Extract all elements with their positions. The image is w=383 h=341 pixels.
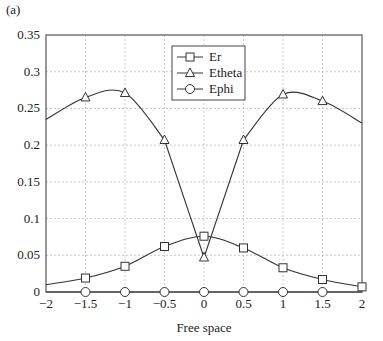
- y-tick-label: 0: [34, 284, 41, 299]
- x-tick-label: 0: [201, 296, 208, 311]
- x-tick-label: −1: [118, 296, 132, 311]
- x-tick-label: 2: [359, 296, 366, 311]
- y-tick-label: 0.05: [17, 247, 40, 262]
- circle-marker-icon: [318, 288, 327, 297]
- x-tick-label: −1.5: [74, 296, 98, 311]
- legend-label: Er: [209, 49, 222, 64]
- y-tick-label: 0.35: [17, 27, 40, 42]
- panel-label: (a): [6, 2, 20, 17]
- series-er: [46, 232, 366, 291]
- circle-marker-icon: [121, 288, 130, 297]
- x-tick-label: 0.5: [235, 296, 251, 311]
- square-marker-icon: [82, 274, 90, 282]
- circle-marker-icon: [160, 288, 169, 297]
- circle-marker-icon: [81, 288, 90, 297]
- y-tick-label: 0.25: [17, 100, 40, 115]
- y-tick-label: 0.1: [24, 211, 40, 226]
- square-marker-icon: [358, 283, 366, 291]
- legend-label: Ephi: [209, 81, 234, 96]
- triangle-marker-icon: [200, 252, 209, 261]
- legend: ErEthetaEphi: [172, 46, 245, 100]
- line-chart: −2−1.5−1−0.500.511.5200.050.10.150.20.25…: [0, 0, 383, 341]
- x-tick-label: −0.5: [153, 296, 177, 311]
- circle-marker-icon: [239, 288, 248, 297]
- x-axis-label: Free space: [176, 320, 231, 335]
- square-marker-icon: [186, 53, 194, 61]
- circle-marker-icon: [279, 288, 288, 297]
- x-tick-label: 1.5: [314, 296, 330, 311]
- square-marker-icon: [319, 276, 327, 284]
- x-tick-label: 1: [280, 296, 287, 311]
- square-marker-icon: [200, 232, 208, 240]
- square-marker-icon: [161, 242, 169, 250]
- square-marker-icon: [279, 264, 287, 272]
- triangle-marker-icon: [121, 88, 130, 97]
- y-tick-label: 0.3: [24, 64, 40, 79]
- y-tick-label: 0.2: [24, 137, 40, 152]
- square-marker-icon: [121, 262, 129, 270]
- y-tick-label: 0.15: [17, 174, 40, 189]
- circle-marker-icon: [186, 85, 195, 94]
- x-tick-label: −2: [39, 296, 53, 311]
- circle-marker-icon: [200, 288, 209, 297]
- square-marker-icon: [240, 244, 248, 252]
- legend-label: Etheta: [209, 65, 242, 80]
- data-series: [46, 88, 366, 296]
